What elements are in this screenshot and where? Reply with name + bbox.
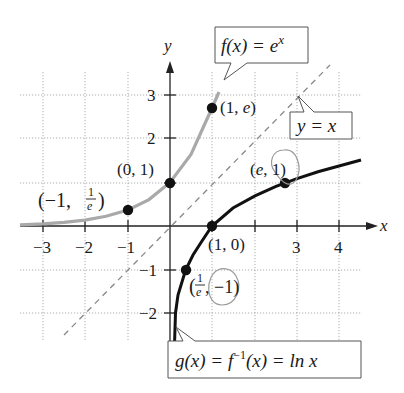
label-neg1-den: e xyxy=(87,199,93,213)
tick-x-4: 4 xyxy=(334,238,343,257)
callout-ln-text-a: g(x) = f xyxy=(175,350,236,372)
label-0-1: (0, 1) xyxy=(117,160,154,179)
function-graph: x y −3 −2 −1 3 4 3 2 −1 −2 (0, 1) (1, e)… xyxy=(0,0,404,393)
svg-text:f(x) = ex: f(x) = ex xyxy=(221,32,284,57)
tick-x-m1: −1 xyxy=(117,238,135,257)
point-inv-e-neg1 xyxy=(181,265,191,275)
label-inv-right: , −1) xyxy=(205,277,239,298)
svg-text:g(x) = f−1(x) = ln x: g(x) = f−1(x) = ln x xyxy=(175,348,318,372)
label-inv-num: 1 xyxy=(197,271,203,285)
tick-x-m3: −3 xyxy=(33,238,51,257)
callout-exp-text: f(x) = e xyxy=(221,35,278,57)
label-neg1-right: ) xyxy=(98,189,105,212)
label-neg1-inv-e: (−1, 1 e ) xyxy=(38,185,105,213)
axes xyxy=(20,61,378,360)
callout-ln-sup: −1 xyxy=(233,348,246,362)
tick-y-m2: −2 xyxy=(139,304,157,323)
point-0-1 xyxy=(165,178,175,188)
callout-ln-text-b: (x) = ln x xyxy=(246,350,318,372)
callout-identity: y = x xyxy=(290,96,352,139)
callout-exp-sup: x xyxy=(277,32,284,47)
label-1-e: (1, e) xyxy=(220,98,256,117)
label-neg1-left: (−1, xyxy=(38,189,71,212)
callout-ln: g(x) = f−1(x) = ln x xyxy=(168,327,361,378)
label-inv-den: e xyxy=(196,285,202,299)
callout-exp: f(x) = ex xyxy=(215,27,308,80)
tick-y-m1: −1 xyxy=(139,261,157,280)
x-axis-label: x xyxy=(379,216,388,235)
ln-curve xyxy=(174,160,361,360)
tick-x-m2: −2 xyxy=(75,238,93,257)
point-1-e xyxy=(207,103,217,113)
callout-identity-text: y = x xyxy=(295,115,337,136)
label-neg1-num: 1 xyxy=(88,185,94,199)
label-e-1: (e, 1) xyxy=(250,160,286,179)
label-inv-left: ( xyxy=(189,275,196,298)
point-neg1-inv-e xyxy=(123,205,133,215)
label-inv-e-neg1: ( 1 e , −1) xyxy=(189,271,239,299)
tick-y-3: 3 xyxy=(147,86,156,105)
point-1-0 xyxy=(207,221,217,231)
y-axis-label: y xyxy=(162,36,172,55)
tick-y-2: 2 xyxy=(147,129,156,148)
label-1-0: (1, 0) xyxy=(208,235,245,254)
tick-x-3: 3 xyxy=(292,238,301,257)
